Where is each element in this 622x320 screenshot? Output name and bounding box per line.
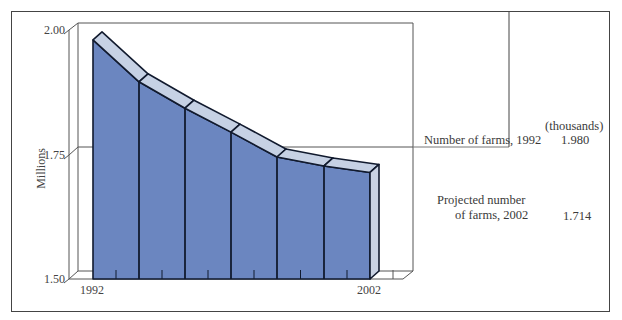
floor-right-edge (403, 271, 413, 279)
projected-label-line2: of farms, 2002 (455, 208, 528, 223)
x-tick-2002: 2002 (357, 283, 381, 298)
projected-label-line1: Projected number (437, 193, 526, 208)
farms-1992-label: Number of farms, 1992 (424, 133, 541, 148)
projected-value: 1.714 (563, 209, 591, 224)
y-tick-1-50: 1.50 (44, 272, 65, 287)
farm-count-chart (0, 0, 622, 320)
farms-1992-value: 1.980 (561, 133, 589, 148)
floor-left-edge (69, 271, 78, 279)
right-side-face (370, 164, 379, 279)
y-tick-2-00: 2.00 (44, 23, 65, 38)
x-tick-1992: 1992 (80, 283, 104, 298)
y-axis-label: Millions (34, 144, 49, 194)
units-header: (thousands) (545, 119, 603, 134)
